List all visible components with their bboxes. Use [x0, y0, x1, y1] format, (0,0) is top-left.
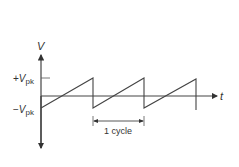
neg-peak-label: −Vpk — [13, 104, 35, 117]
pos-peak-label: +Vpk — [13, 73, 35, 86]
sawtooth-diagram: V t +Vpk −Vpk 1 cycle — [0, 0, 239, 167]
cycle-marker — [93, 116, 144, 126]
y-axis-label: V — [37, 40, 46, 52]
cycle-label: 1 cycle — [104, 126, 132, 136]
x-axis-label: t — [220, 90, 224, 102]
sawtooth-wave — [41, 78, 196, 110]
